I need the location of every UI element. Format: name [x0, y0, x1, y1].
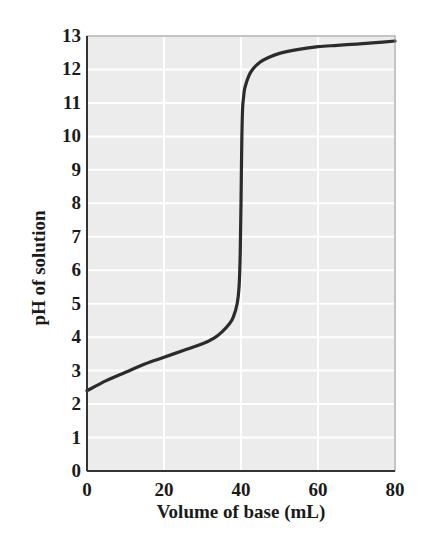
y-tick-label: 8	[72, 192, 82, 213]
y-tick-label: 11	[63, 92, 81, 113]
x-tick-label: 60	[309, 479, 328, 500]
x-tick-label: 20	[155, 479, 174, 500]
y-tick-label: 6	[72, 259, 82, 280]
x-tick-label: 80	[386, 479, 405, 500]
y-tick-label: 12	[62, 58, 81, 79]
x-axis-label: Volume of base (mL)	[157, 501, 326, 523]
y-tick-label: 5	[72, 293, 82, 314]
y-tick-label: 13	[62, 25, 81, 46]
x-tick-labels: 020406080	[82, 479, 404, 500]
y-tick-label: 4	[72, 326, 82, 347]
titration-chart: 012345678910111213 020406080 Volume of b…	[0, 0, 429, 539]
y-tick-label: 1	[72, 427, 82, 448]
y-tick-label: 2	[72, 393, 82, 414]
y-tick-label: 7	[72, 226, 82, 247]
y-tick-label: 10	[62, 125, 81, 146]
x-tick-label: 40	[232, 479, 251, 500]
y-tick-labels: 012345678910111213	[62, 25, 82, 481]
y-tick-label: 9	[72, 159, 82, 180]
y-axis-label: pH of solution	[28, 210, 49, 326]
y-tick-label: 0	[72, 460, 82, 481]
y-tick-label: 3	[72, 360, 82, 381]
x-tick-label: 0	[82, 479, 92, 500]
